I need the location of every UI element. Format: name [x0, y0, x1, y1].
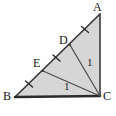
geometry-canvas: [0, 0, 116, 116]
point-label-d: D: [59, 34, 68, 46]
segment-bc: [15, 96, 100, 97]
vertex-label-b: B: [3, 90, 11, 102]
length-label-cd: 1: [87, 57, 93, 68]
length-label-ce: 1: [64, 81, 70, 92]
point-d-dot: [69, 44, 71, 46]
vertex-label-a: A: [93, 1, 102, 13]
point-label-e: E: [33, 57, 40, 69]
vertex-label-c: C: [103, 90, 111, 102]
geometry-figure: A B C D E 1 1: [0, 0, 116, 116]
point-e-dot: [42, 70, 44, 72]
